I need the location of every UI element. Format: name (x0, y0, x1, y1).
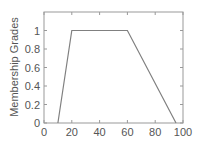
y-tick-label: 0.8 (25, 43, 40, 55)
x-tick-label: 60 (121, 126, 133, 138)
plot-frame (44, 12, 183, 123)
y-tick-label: 0.6 (25, 62, 40, 74)
membership-function-chart: 020406080100 00.20.40.60.81 Membership G… (0, 0, 202, 144)
y-tick-labels: 00.20.40.60.81 (25, 25, 40, 130)
x-tick-label: 100 (174, 126, 192, 138)
y-axis-label: Membership Grades (8, 17, 20, 117)
x-tick-label: 80 (149, 126, 161, 138)
y-tick-label: 0 (34, 117, 40, 129)
x-tick-label: 40 (93, 126, 105, 138)
x-tick-labels: 020406080100 (41, 126, 192, 138)
x-tick-label: 0 (41, 126, 47, 138)
axis-ticks (44, 12, 183, 123)
trapezoid-line (58, 31, 176, 124)
x-tick-label: 20 (66, 126, 78, 138)
y-tick-label: 1 (34, 25, 40, 37)
y-tick-label: 0.2 (25, 99, 40, 111)
y-tick-label: 0.4 (25, 80, 40, 92)
